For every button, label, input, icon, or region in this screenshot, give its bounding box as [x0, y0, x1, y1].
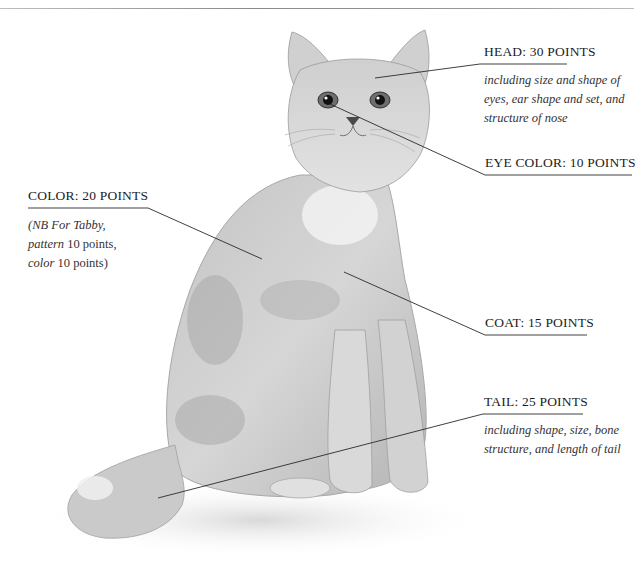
tail-description: including shape, size, bone structure, a…: [484, 421, 621, 459]
head-description-line: eyes, ear shape and set, and: [484, 90, 625, 109]
color-description-line: (NB For Tabby,: [28, 216, 117, 235]
head-description-line: including size and shape of: [484, 71, 625, 90]
color-description-line: pattern 10 points,: [28, 235, 117, 254]
cat-head: [288, 59, 429, 192]
head-description: including size and shape of eyes, ear sh…: [484, 71, 625, 128]
label-eye-color: EYE COLOR: 10 POINTS: [485, 155, 636, 171]
cat-front-leg-left: [328, 330, 372, 493]
head-description-line: structure of nose: [484, 109, 625, 128]
label-coat: COAT: 15 POINTS: [485, 315, 594, 331]
tail-description-line: structure, and length of tail: [484, 440, 621, 459]
tail-description-line: including shape, size, bone: [484, 421, 621, 440]
label-head: HEAD: 30 POINTS: [484, 44, 596, 60]
label-tail: TAIL: 25 POINTS: [484, 394, 588, 410]
color-description: (NB For Tabby, pattern 10 points, color …: [28, 216, 117, 273]
color-description-line: color 10 points): [28, 254, 117, 273]
label-color: COLOR: 20 POINTS: [28, 188, 148, 204]
